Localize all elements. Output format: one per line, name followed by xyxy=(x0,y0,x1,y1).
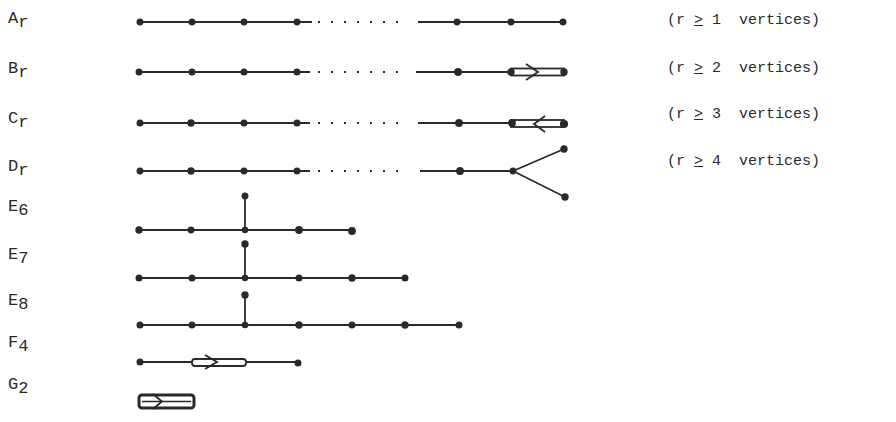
diagram-G2 xyxy=(139,394,194,409)
diagram-F4 xyxy=(137,355,300,369)
diagram-B xyxy=(136,64,566,80)
diagram-E7 xyxy=(136,241,407,281)
diagram-E8 xyxy=(137,292,461,328)
diagram-D xyxy=(137,146,567,200)
dynkin-diagrams xyxy=(0,0,896,422)
diagram-E6 xyxy=(136,193,355,234)
diagram-A xyxy=(137,19,565,24)
diagram-C xyxy=(137,116,567,132)
